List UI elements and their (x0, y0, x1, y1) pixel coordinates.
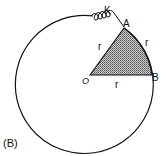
diagram-canvas: K A B O r r r (B) (0, 0, 168, 156)
label-a: A (123, 18, 130, 29)
label-o: O (82, 76, 89, 86)
circle-sector-diagram: K A B O r r r (B) (0, 0, 168, 156)
label-arc-ab: r (145, 37, 149, 48)
label-radius-oa: r (98, 41, 102, 52)
label-radius-ob: r (115, 79, 119, 90)
label-k: K (104, 5, 111, 16)
figure-caption: (B) (3, 137, 18, 149)
label-b: B (152, 72, 159, 83)
